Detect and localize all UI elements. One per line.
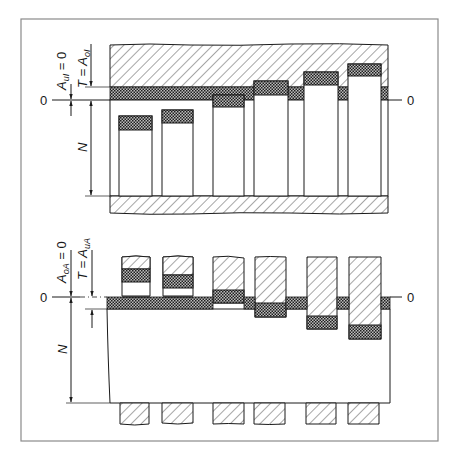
lower-zero-label-right: 0 bbox=[407, 290, 414, 305]
upper-zero-label-left: 0 bbox=[40, 93, 47, 108]
upper-n-label: N bbox=[75, 142, 90, 152]
upper-t-label: T = AoI bbox=[75, 49, 92, 88]
lower-stubs bbox=[120, 403, 379, 425]
lower-hole-2 bbox=[163, 256, 193, 296]
svg-text:T = AoI: T = AoI bbox=[75, 49, 92, 88]
upper-rod-6 bbox=[348, 64, 381, 196]
lower-hole-3 bbox=[213, 256, 244, 303]
lower-tolerance-band bbox=[107, 297, 390, 309]
upper-rod-1 bbox=[119, 116, 152, 196]
svg-text:N: N bbox=[75, 142, 90, 152]
upper-rod-3 bbox=[213, 95, 244, 196]
lower-hole-1 bbox=[122, 256, 150, 296]
lower-n-label: N bbox=[55, 344, 70, 354]
upper-rod-2 bbox=[162, 110, 193, 196]
lower-diagram: 0 0 AoA = 0 T = AuA N bbox=[40, 238, 414, 425]
lower-body bbox=[107, 309, 390, 403]
lower-hole-4 bbox=[255, 257, 286, 318]
upper-zero-label-right: 0 bbox=[407, 93, 414, 108]
fit-system-diagram: 0 0 AuI = 0 T = AoI N bbox=[0, 0, 458, 464]
upper-housing-hatched bbox=[110, 44, 388, 87]
lower-zero-label-left: 0 bbox=[40, 290, 47, 305]
upper-rod-5 bbox=[304, 72, 338, 196]
svg-text:AoA = 0: AoA = 0 bbox=[54, 241, 71, 284]
svg-text:N: N bbox=[55, 344, 70, 354]
lower-t-label: T = AuA bbox=[75, 238, 92, 280]
lower-hole-6 bbox=[349, 257, 381, 339]
upper-rod-4 bbox=[254, 81, 288, 196]
upper-tolerance-band bbox=[110, 87, 388, 100]
lower-hole-5 bbox=[307, 257, 337, 329]
svg-text:AuI = 0: AuI = 0 bbox=[54, 52, 71, 91]
upper-diagram: 0 0 AuI = 0 T = AoI N bbox=[40, 44, 414, 215]
svg-text:T = AuA: T = AuA bbox=[75, 238, 92, 280]
lower-ao-label: AoA = 0 bbox=[54, 241, 71, 284]
upper-bottom-hatched bbox=[110, 196, 388, 214]
upper-au-label: AuI = 0 bbox=[54, 52, 71, 91]
